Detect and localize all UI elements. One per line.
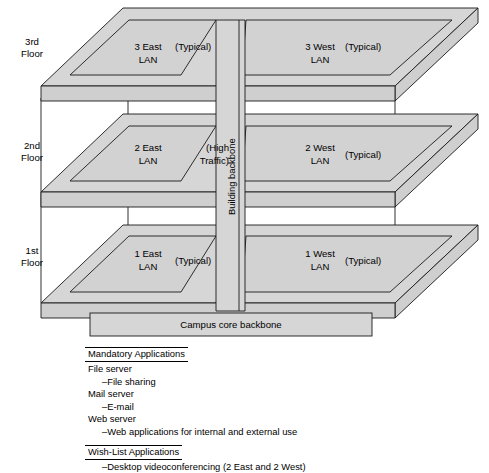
mandatory-item-4: Web server — [88, 413, 468, 426]
floor-label-1st: 1st Floor — [6, 245, 58, 268]
lan-1-west-name-line1: 1 West — [295, 247, 345, 260]
lan-1-west-name-line2: LAN — [295, 260, 345, 273]
lan-2-west-note-line1: (Typical) — [345, 149, 381, 160]
lan-3-east-note-line1: (Typical) — [175, 41, 211, 52]
floor-1-label-line1: 1st — [26, 245, 39, 256]
floor-3-label-line1: 3rd — [25, 36, 39, 47]
floor-2-group — [41, 98, 478, 207]
lan-1-west-note: (Typical) — [345, 254, 381, 267]
lan-1-east-name-line2: LAN — [124, 260, 172, 273]
lan-1-east-note-line1: (Typical) — [175, 255, 211, 266]
floor-3-group — [41, 8, 478, 101]
floor-2-label-line1: 2nd — [24, 140, 40, 151]
lan-1-east-name-line1: 1 East — [124, 247, 172, 260]
lan-1-west-label: 1 West LAN — [295, 247, 345, 273]
wishlist-applications-heading: Wish-List Applications — [85, 445, 182, 460]
campus-core-backbone-label: Campus core backbone — [90, 319, 372, 330]
lan-2-east-note-line2: Traffic) — [177, 154, 229, 167]
lan-3-west-name-line1: 3 West — [295, 40, 345, 53]
lan-3-east-note: (Typical) — [175, 40, 211, 53]
mandatory-item-5: –Web applications for internal and exter… — [88, 426, 468, 439]
lan-2-east-name-line1: 2 East — [124, 141, 172, 154]
lan-3-west-note: (Typical) — [345, 40, 381, 53]
lan-2-east-label: 2 East LAN — [124, 141, 172, 167]
lan-2-east-note: (High Traffic) — [177, 141, 229, 167]
floor-2-label-line2: Floor — [21, 152, 43, 163]
floor-3-label-line2: Floor — [21, 48, 43, 59]
mandatory-applications-heading: Mandatory Applications — [85, 347, 188, 362]
mandatory-item-0: File server — [88, 363, 468, 376]
lan-2-west-name-line2: LAN — [295, 154, 345, 167]
building-backbone-label: Building backbone — [226, 138, 237, 215]
lan-3-east-name-line2: LAN — [124, 53, 172, 66]
lan-1-west-note-line1: (Typical) — [345, 255, 381, 266]
lan-2-west-name-line1: 2 West — [295, 141, 345, 154]
lan-3-west-label: 3 West LAN — [295, 40, 345, 66]
lan-2-east-note-line1: (High — [177, 141, 229, 154]
lan-2-west-note: (Typical) — [345, 148, 381, 161]
lan-1-east-note: (Typical) — [175, 254, 211, 267]
mandatory-item-1: –File sharing — [88, 376, 468, 389]
floor-1-label-line2: Floor — [21, 257, 43, 268]
lan-3-east-name-line1: 3 East — [124, 40, 172, 53]
applications-block: Mandatory Applications File server –File… — [88, 347, 468, 473]
floor-1-group — [41, 200, 478, 318]
floor-label-3rd: 3rd Floor — [6, 36, 58, 59]
lan-3-east-label: 3 East LAN — [124, 40, 172, 66]
mandatory-item-2: Mail server — [88, 388, 468, 401]
lan-1-east-label: 1 East LAN — [124, 247, 172, 273]
lan-3-west-note-line1: (Typical) — [345, 41, 381, 52]
mandatory-item-3: –E-mail — [88, 401, 468, 414]
lan-2-east-name-line2: LAN — [124, 154, 172, 167]
wishlist-item-0: –Desktop videoconferencing (2 East and 2… — [88, 461, 468, 473]
lan-3-west-name-line2: LAN — [295, 53, 345, 66]
floor-label-2nd: 2nd Floor — [6, 140, 58, 163]
lan-2-west-label: 2 West LAN — [295, 141, 345, 167]
